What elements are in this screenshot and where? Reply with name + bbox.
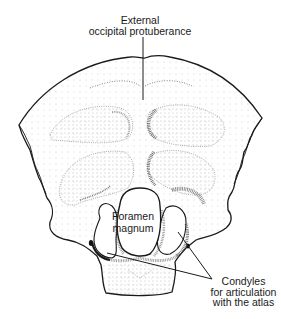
label-line: Condyles [206,276,281,287]
occipital-bone-diagram: External occipital protuberance Foramen … [0,0,281,319]
label-condyles: Condyles for articulation with the atlas [206,276,281,308]
label-line: Foramen [108,210,158,222]
label-foramen-magnum: Foramen magnum [108,210,158,234]
label-line: with the atlas [206,297,281,308]
bone-outline [19,56,262,296]
label-line: magnum [108,222,158,234]
label-line: occipital protuberance [80,26,200,37]
diagram-drawing [0,0,281,319]
label-external-occipital-protuberance: External occipital protuberance [80,15,200,37]
